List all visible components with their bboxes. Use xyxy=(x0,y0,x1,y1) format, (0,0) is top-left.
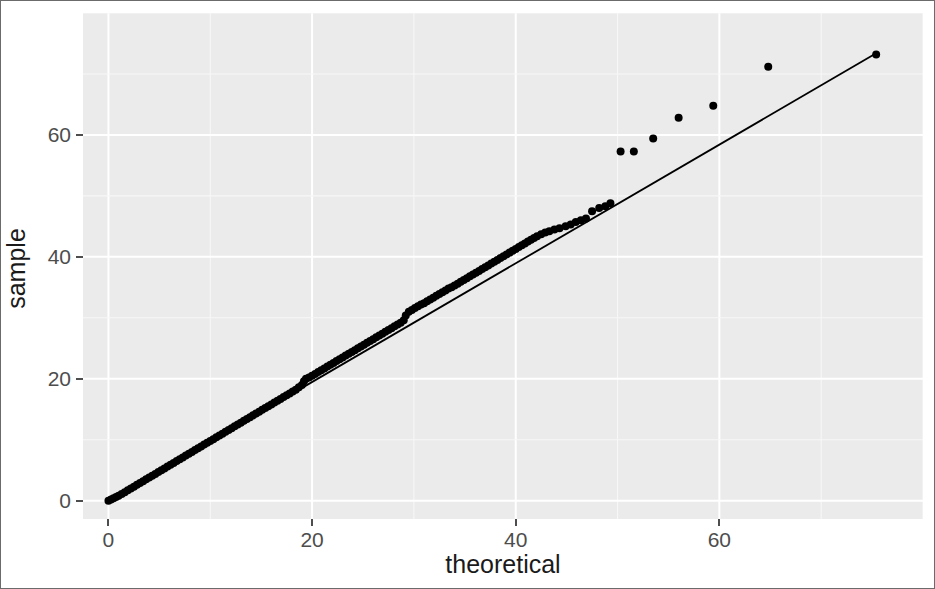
y-tick-mark-20 xyxy=(76,378,83,380)
data-point xyxy=(630,147,638,155)
x-tick-mark-0 xyxy=(107,519,109,526)
x-tick-label-0: 0 xyxy=(103,528,115,552)
x-axis-title: theoretical xyxy=(83,550,923,579)
data-point xyxy=(675,114,683,122)
data-point xyxy=(709,102,717,110)
data-point xyxy=(649,135,657,143)
x-tick-mark-60 xyxy=(718,519,720,526)
qq-plot-figure: 0204060 0204060 theoretical sample xyxy=(0,0,935,589)
x-tick-mark-40 xyxy=(515,519,517,526)
data-point xyxy=(617,147,625,155)
data-point xyxy=(588,207,596,215)
data-point xyxy=(606,199,614,207)
x-tick-label-60: 60 xyxy=(708,528,731,552)
data-point xyxy=(582,214,590,222)
plot-panel xyxy=(83,13,923,519)
y-tick-mark-40 xyxy=(76,256,83,258)
data-point xyxy=(872,50,880,58)
x-tick-mark-20 xyxy=(311,519,313,526)
y-axis-title: sample xyxy=(2,16,31,522)
x-tick-label-20: 20 xyxy=(300,528,323,552)
y-tick-mark-0 xyxy=(76,500,83,502)
data-layer xyxy=(83,13,923,519)
data-point xyxy=(764,63,772,71)
y-tick-mark-60 xyxy=(76,134,83,136)
x-tick-label-40: 40 xyxy=(504,528,527,552)
